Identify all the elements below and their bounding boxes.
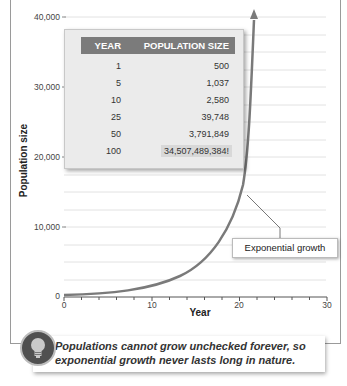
row-population: 500 [214, 61, 229, 71]
row-year: 100 [81, 146, 121, 156]
arrow-head-icon [250, 9, 258, 19]
x-tick-label: 20 [229, 300, 249, 310]
y-axis-label: Population size [18, 116, 29, 206]
row-year: 10 [81, 95, 121, 105]
row-population: 34,507,489,384! [161, 145, 232, 157]
row-population: 1,037 [206, 78, 229, 88]
header-year: YEAR [81, 40, 121, 51]
label-leader-line [247, 195, 280, 238]
table-row: 5 1,037 [81, 75, 235, 91]
population-table: YEAR POPULATION SIZE 1 500 5 1,037 10 2,… [64, 29, 244, 169]
y-tick-label: 10,000 [20, 222, 60, 232]
table-row: 50 3,791,849 [81, 126, 235, 142]
y-tick-label: 30,000 [20, 82, 60, 92]
row-year: 25 [81, 112, 121, 122]
x-axis-label: Year [180, 307, 220, 318]
x-tick-label: 0 [54, 300, 74, 310]
x-tick-label: 30 [317, 300, 337, 310]
row-year: 1 [81, 61, 121, 71]
note-line-1: Populations cannot grow unchecked foreve… [55, 339, 306, 353]
table-row: 10 2,580 [81, 92, 235, 108]
x-tick-label: 10 [142, 300, 162, 310]
row-population: 39,748 [201, 112, 229, 122]
table-row: 25 39,748 [81, 109, 235, 125]
callout-note: Populations cannot grow unchecked foreve… [33, 336, 325, 372]
table-row: 1 500 [81, 58, 235, 74]
x-tick-marks [64, 297, 327, 301]
note-text: Populations cannot grow unchecked foreve… [55, 339, 306, 367]
table-header: YEAR POPULATION SIZE [81, 37, 235, 54]
curve-label: Exponential growth [232, 238, 338, 258]
lightbulb-icon [20, 330, 56, 366]
table-row-highlighted: 100 34,507,489,384! [81, 143, 235, 159]
row-population: 2,580 [206, 95, 229, 105]
y-tick-label: 40,000 [20, 12, 60, 22]
header-population-size: POPULATION SIZE [144, 40, 229, 51]
row-year: 50 [81, 129, 121, 139]
row-year: 5 [81, 78, 121, 88]
row-population: 3,791,849 [189, 129, 229, 139]
note-line-2: exponential growth never lasts long in n… [55, 353, 306, 367]
